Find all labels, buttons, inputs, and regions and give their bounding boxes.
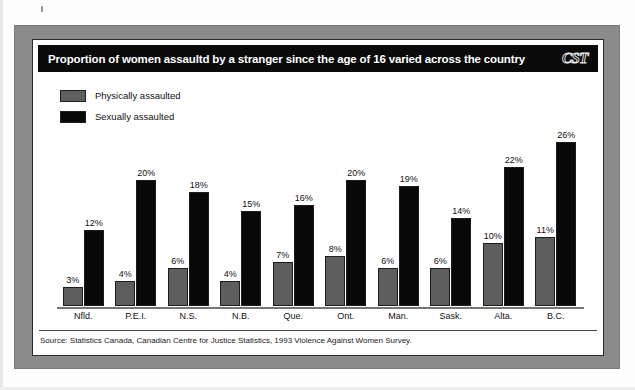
bar-wrap: 6%	[378, 128, 398, 306]
page-registration-tick	[41, 6, 43, 12]
bar-group: 7%16%	[267, 128, 320, 306]
x-tick-label: Que.	[267, 311, 320, 321]
bar-physically-assaulted[interactable]	[220, 281, 240, 306]
legend-label: Sexually assaulted	[95, 111, 174, 122]
bar-sexually-assaulted[interactable]	[451, 218, 471, 306]
bar-group: 6%18%	[162, 128, 215, 306]
bar-sexually-assaulted[interactable]	[84, 230, 104, 306]
chart-title-bar: Proportion of women assaultd by a strang…	[38, 45, 598, 72]
bar-wrap: 15%	[241, 128, 261, 306]
x-tick-label: Sask.	[425, 311, 478, 321]
x-axis-tick-labels: Nfld.P.E.I.N.S.N.B.Que.Ont.Man.Sask.Alta…	[57, 311, 582, 321]
bar-sexually-assaulted[interactable]	[399, 186, 419, 306]
figure-inner-panel: Proportion of women assaultd by a strang…	[32, 39, 604, 356]
bar-sexually-assaulted[interactable]	[346, 180, 366, 306]
bar-value-label: 4%	[224, 269, 237, 279]
bar-wrap: 6%	[168, 128, 188, 306]
legend-swatch-gray	[60, 90, 86, 102]
page-edge-left	[0, 0, 3, 390]
bar-wrap: 4%	[115, 128, 135, 306]
bar-wrap: 4%	[220, 128, 240, 306]
legend-item: Physically assaulted	[60, 87, 181, 104]
bar-value-label: 11%	[537, 225, 554, 235]
bar-wrap: 20%	[136, 128, 156, 306]
x-tick-label: Man.	[372, 311, 425, 321]
bar-value-label: 20%	[137, 168, 155, 178]
bar-physically-assaulted[interactable]	[430, 268, 450, 306]
bar-wrap: 16%	[294, 128, 314, 306]
bar-physically-assaulted[interactable]	[63, 287, 83, 306]
bar-value-label: 15%	[242, 199, 260, 209]
bar-sexually-assaulted[interactable]	[189, 192, 209, 306]
bar-wrap: 6%	[430, 128, 450, 306]
bar-value-label: 16%	[295, 193, 313, 203]
bar-sexually-assaulted[interactable]	[241, 211, 261, 306]
bar-physically-assaulted[interactable]	[168, 268, 188, 306]
page-title: Proportion of women assaultd by a strang…	[48, 53, 525, 65]
bar-wrap: 11%	[535, 128, 555, 306]
bar-group: 6%14%	[425, 128, 478, 306]
bar-value-label: 6%	[171, 256, 184, 266]
bar-wrap: 12%	[84, 128, 104, 306]
bar-value-label: 18%	[190, 180, 208, 190]
bar-physically-assaulted[interactable]	[273, 262, 293, 306]
bar-physically-assaulted[interactable]	[378, 268, 398, 306]
bar-value-label: 7%	[276, 250, 289, 260]
x-tick-label: N.B.	[215, 311, 268, 321]
bar-wrap: 19%	[399, 128, 419, 306]
legend-swatch-black	[60, 111, 86, 123]
bar-value-label: 14%	[452, 206, 470, 216]
bar-wrap: 7%	[273, 128, 293, 306]
bar-physically-assaulted[interactable]	[483, 243, 503, 306]
bar-wrap: 20%	[346, 128, 366, 306]
bar-group: 3%12%	[57, 128, 110, 306]
bar-group: 10%22%	[477, 128, 530, 306]
bar-value-label: 3%	[66, 275, 79, 285]
bar-value-label: 19%	[400, 174, 418, 184]
x-tick-label: Alta.	[477, 311, 530, 321]
source-note: Source: Statistics Canada, Canadian Cent…	[40, 336, 412, 345]
bar-wrap: 3%	[63, 128, 83, 306]
figure-frame: Proportion of women assaultd by a strang…	[14, 25, 620, 369]
bar-physically-assaulted[interactable]	[325, 256, 345, 306]
bar-wrap: 26%	[556, 128, 576, 306]
bar-wrap: 18%	[189, 128, 209, 306]
bar-group: 4%15%	[215, 128, 268, 306]
x-tick-label: P.E.I.	[110, 311, 163, 321]
bar-group: 11%26%	[530, 128, 583, 306]
legend-item: Sexually assaulted	[60, 108, 181, 125]
bar-value-label: 20%	[347, 168, 365, 178]
legend-label: Physically assaulted	[95, 90, 181, 101]
x-tick-label: N.S.	[162, 311, 215, 321]
bar-sexually-assaulted[interactable]	[504, 167, 524, 306]
bar-group: 6%19%	[372, 128, 425, 306]
bar-group: 4%20%	[110, 128, 163, 306]
bar-sexually-assaulted[interactable]	[136, 180, 156, 306]
footer-divider	[39, 330, 597, 331]
bar-wrap: 10%	[483, 128, 503, 306]
x-tick-label: Nfld.	[57, 311, 110, 321]
bar-value-label: 12%	[85, 218, 103, 228]
bar-value-label: 8%	[329, 244, 342, 254]
bar-value-label: 10%	[484, 231, 502, 241]
bar-wrap: 22%	[504, 128, 524, 306]
x-tick-label: B.C.	[530, 311, 583, 321]
bar-value-label: 4%	[119, 269, 132, 279]
cst-logo: CST	[562, 50, 590, 67]
bar-value-label: 22%	[505, 155, 523, 165]
bar-physically-assaulted[interactable]	[535, 237, 555, 306]
chart-legend: Physically assaultedSexually assaulted	[60, 87, 181, 129]
bar-sexually-assaulted[interactable]	[294, 205, 314, 306]
x-tick-label: Ont.	[320, 311, 373, 321]
bar-value-label: 6%	[381, 256, 394, 266]
x-axis-line	[57, 307, 584, 309]
bar-physically-assaulted[interactable]	[115, 281, 135, 306]
bar-value-label: 6%	[434, 256, 447, 266]
bar-wrap: 8%	[325, 128, 345, 306]
bar-sexually-assaulted[interactable]	[556, 142, 576, 306]
bar-wrap: 14%	[451, 128, 471, 306]
bar-value-label: 26%	[557, 130, 575, 140]
bar-group: 8%20%	[320, 128, 373, 306]
chart-plot-area: 3%12%4%20%6%18%4%15%7%16%8%20%6%19%6%14%…	[57, 128, 582, 306]
scanned-page: Proportion of women assaultd by a strang…	[0, 0, 635, 390]
